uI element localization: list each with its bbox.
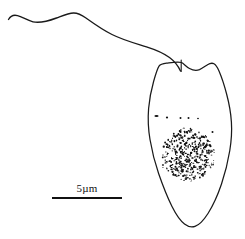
granule (180, 167, 182, 169)
granule (164, 142, 166, 144)
granule (179, 148, 181, 150)
granule (180, 151, 181, 152)
granule (186, 178, 187, 179)
granule (179, 162, 180, 163)
granule (206, 142, 207, 144)
granule (206, 165, 208, 166)
granule (170, 167, 172, 168)
granule (174, 160, 175, 161)
granule (185, 159, 187, 161)
granule (183, 139, 184, 141)
granule (194, 141, 196, 143)
granule (173, 173, 174, 174)
granule (173, 146, 175, 147)
granule (169, 148, 170, 150)
granule (187, 157, 189, 158)
granule (181, 153, 183, 155)
granule (191, 179, 192, 180)
granule (178, 138, 180, 140)
granule (205, 166, 207, 167)
granule (162, 154, 164, 155)
granule (189, 166, 191, 167)
granule (192, 146, 194, 147)
granule (202, 173, 204, 175)
granule (202, 150, 204, 152)
granule (203, 164, 205, 166)
granule (175, 157, 176, 158)
granule (192, 134, 194, 136)
granule (188, 161, 190, 162)
granule (205, 145, 207, 147)
granule (200, 148, 201, 150)
granule (168, 146, 170, 147)
granule (190, 153, 191, 154)
granule (200, 169, 202, 170)
granule (179, 161, 181, 162)
granule (204, 173, 205, 174)
granule (175, 159, 177, 160)
granule (206, 157, 208, 158)
granule (199, 157, 201, 158)
granule (208, 159, 210, 160)
granule (180, 146, 182, 148)
granule (195, 160, 197, 162)
granule (209, 165, 210, 167)
granule (197, 146, 198, 148)
granule (173, 133, 175, 135)
flagellum (9, 13, 181, 71)
granule (186, 156, 187, 157)
granule (189, 156, 191, 157)
granule (191, 129, 192, 130)
granule (193, 148, 195, 150)
granule (176, 176, 178, 177)
granule (196, 153, 198, 155)
granule (190, 172, 191, 173)
granule (214, 149, 215, 150)
granule (191, 157, 193, 158)
granule (200, 140, 201, 142)
granule (183, 180, 184, 181)
granule (202, 159, 203, 161)
granule (204, 172, 205, 173)
granule (206, 150, 207, 152)
granule (202, 144, 204, 146)
speck-dot (197, 118, 199, 120)
granule (189, 178, 191, 179)
granule (172, 150, 173, 151)
granule (191, 167, 192, 168)
granule (199, 154, 201, 156)
granule (178, 166, 180, 167)
granule (192, 142, 194, 144)
granule (210, 144, 211, 146)
granule (176, 139, 177, 141)
granule (186, 170, 188, 172)
granule (205, 162, 207, 163)
granule (213, 149, 214, 150)
granule (165, 152, 166, 153)
scale-bar-label: 5µm (0, 182, 174, 194)
granule (187, 154, 189, 156)
granule (211, 155, 213, 156)
granule (198, 162, 199, 164)
granule (176, 152, 178, 154)
speck-dot (212, 131, 214, 133)
granule (192, 149, 193, 151)
granule (193, 142, 195, 143)
granule (195, 144, 197, 145)
granule (197, 168, 199, 169)
granule (172, 144, 173, 146)
granule (179, 160, 180, 161)
granule (170, 165, 172, 166)
granule (179, 156, 180, 157)
granule (179, 164, 180, 165)
granule (202, 164, 203, 165)
granule (199, 138, 201, 140)
granule (166, 161, 167, 162)
granule (202, 143, 204, 145)
granule (186, 164, 188, 165)
granule (197, 172, 199, 173)
granule (170, 168, 172, 170)
granule (174, 174, 176, 176)
granule (171, 140, 172, 142)
granule (191, 144, 193, 145)
